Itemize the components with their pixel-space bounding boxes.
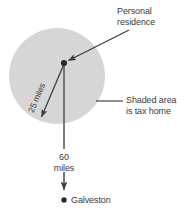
- personal-residence-label-line1: Personal: [117, 6, 155, 17]
- tax-home-diagram: Personal residence Shaded area is tax ho…: [0, 0, 185, 214]
- travel-distance-label: 60 miles: [43, 152, 85, 173]
- shaded-area-label-line2: is tax home: [126, 106, 176, 117]
- galveston-dot: [61, 197, 66, 202]
- shaded-tax-home-circle: [9, 28, 105, 124]
- travel-distance-label-line2: miles: [43, 163, 85, 174]
- shaded-area-label-line1: Shaded area: [126, 95, 176, 106]
- travel-distance-label-line1: 60: [43, 152, 85, 163]
- galveston-label: Galveston: [71, 195, 111, 206]
- personal-residence-label-line2: residence: [117, 17, 155, 28]
- personal-residence-label: Personal residence: [117, 6, 155, 27]
- shaded-area-label: Shaded area is tax home: [126, 95, 176, 116]
- personal-residence-dot: [61, 60, 67, 66]
